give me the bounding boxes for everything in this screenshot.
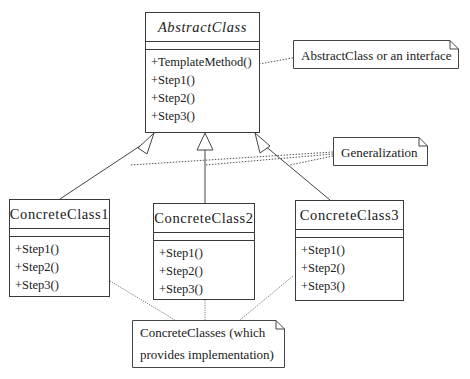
operation: +Step1()	[301, 241, 403, 259]
abstract-class-box[interactable]: AbstractClass +TemplateMethod() +Step1()…	[145, 12, 260, 133]
attributes-section	[154, 233, 254, 241]
operation: +Step3()	[15, 276, 109, 294]
class-name: ConcreteClass1	[10, 200, 109, 229]
operation: +Step3()	[301, 277, 403, 295]
note-text: AbstractClass or an interface	[301, 45, 452, 66]
operation: +Step3()	[151, 107, 259, 125]
operation: +TemplateMethod()	[151, 53, 259, 71]
attributes-section	[10, 229, 109, 237]
class-name: ConcreteClass2	[154, 204, 254, 233]
concrete-class-3-box[interactable]: ConcreteClass3 +Step1() +Step2() +Step3(…	[295, 200, 404, 301]
concrete-class-2-box[interactable]: ConcreteClass2 +Step1() +Step2() +Step3(…	[153, 203, 255, 300]
generalization-note[interactable]: Generalization	[333, 137, 428, 166]
concrete-class-1-box[interactable]: ConcreteClass1 +Step1() +Step2() +Step3(…	[9, 199, 110, 297]
operation: +Step2()	[15, 258, 109, 276]
attributes-section	[146, 42, 259, 50]
operation: +Step1()	[151, 71, 259, 89]
operations-section: +Step1() +Step2() +Step3()	[154, 241, 254, 298]
operation: +Step1()	[15, 240, 109, 258]
note-text: Generalization	[341, 142, 418, 163]
operation: +Step3()	[159, 280, 254, 298]
class-name: ConcreteClass3	[296, 201, 403, 230]
operation: +Step2()	[301, 259, 403, 277]
attributes-section	[296, 230, 403, 238]
note-text-line-1: ConcreteClasses (which	[140, 322, 274, 344]
operations-section: +Step1() +Step2() +Step3()	[296, 238, 403, 295]
operations-section: +Step1() +Step2() +Step3()	[10, 237, 109, 294]
concrete-classes-note[interactable]: ConcreteClasses (which provides implemen…	[132, 320, 285, 368]
note-text-line-2: provides implementation)	[140, 344, 274, 366]
abstract-note[interactable]: AbstractClass or an interface	[293, 40, 459, 69]
operation: +Step1()	[159, 244, 254, 262]
operation: +Step2()	[159, 262, 254, 280]
operations-section: +TemplateMethod() +Step1() +Step2() +Ste…	[146, 50, 259, 125]
operation: +Step2()	[151, 89, 259, 107]
abstract-class-name: AbstractClass	[146, 13, 259, 42]
